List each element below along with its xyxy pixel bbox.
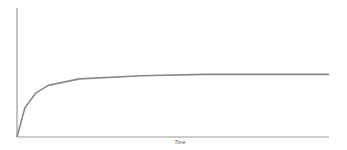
x-axis-label: Time: [150, 139, 210, 145]
data-line: [17, 74, 329, 137]
chart: [0, 0, 347, 150]
